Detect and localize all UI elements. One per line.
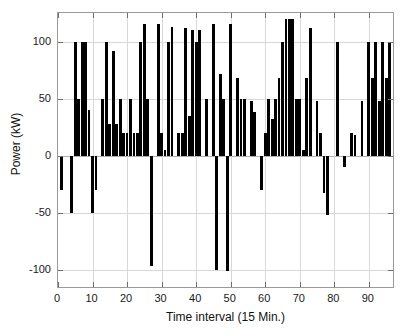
bar <box>281 42 284 156</box>
bar <box>136 133 139 156</box>
bar <box>326 156 329 215</box>
chart-figure: -100-50050100 0102030405060708090 Time i… <box>0 0 417 334</box>
bar <box>122 133 125 156</box>
bar <box>205 99 208 156</box>
bar <box>236 78 239 156</box>
bar <box>288 19 291 156</box>
bar <box>367 42 370 156</box>
bar-series <box>58 13 393 287</box>
tick-x <box>300 282 301 287</box>
y-tick-label: 50 <box>0 92 51 104</box>
tick-x-top <box>93 13 94 18</box>
bar <box>88 110 91 156</box>
tick-x-top <box>300 13 301 18</box>
plot-area <box>57 12 394 288</box>
y-axis-label: Power (kW) <box>9 64 23 224</box>
bar <box>250 101 253 156</box>
x-axis-label: Time interval (15 Min.) <box>57 310 394 324</box>
bar <box>305 78 308 156</box>
tick-x-top <box>334 13 335 18</box>
bar <box>253 112 256 155</box>
bar <box>195 42 198 156</box>
y-tick-label: -50 <box>0 206 51 218</box>
tick-y-right <box>388 99 393 100</box>
bar <box>343 156 346 167</box>
bar <box>285 19 288 156</box>
bar <box>150 156 153 267</box>
bar <box>274 99 277 156</box>
bar <box>81 42 84 156</box>
bar <box>112 51 115 156</box>
bar <box>361 101 364 156</box>
x-tick-label: 90 <box>362 292 374 304</box>
bar <box>354 135 357 156</box>
bar <box>167 42 170 156</box>
bar <box>188 116 191 156</box>
bar <box>212 24 215 155</box>
bar <box>139 42 142 156</box>
x-tick-label: 80 <box>327 292 339 304</box>
bar <box>91 156 94 213</box>
bar <box>177 133 180 156</box>
bar <box>184 28 187 156</box>
bar <box>298 99 301 156</box>
tick-x <box>93 282 94 287</box>
bar <box>385 78 388 156</box>
bar <box>302 150 305 156</box>
bar <box>70 156 73 213</box>
tick-x-top <box>162 13 163 18</box>
bar <box>133 133 136 156</box>
bar <box>316 101 319 156</box>
tick-x-top <box>369 13 370 18</box>
x-tick-label: 60 <box>258 292 270 304</box>
tick-x-top <box>127 13 128 18</box>
bar <box>84 42 87 156</box>
bar <box>198 30 201 156</box>
bar <box>164 150 167 156</box>
tick-x <box>231 282 232 287</box>
bar <box>74 42 77 156</box>
tick-y <box>58 156 63 157</box>
bar <box>115 124 118 156</box>
bar <box>240 99 243 156</box>
x-tick-label: 40 <box>189 292 201 304</box>
tick-x <box>265 282 266 287</box>
bar <box>350 133 353 156</box>
tick-x <box>334 282 335 287</box>
bar <box>229 24 232 155</box>
bar <box>323 156 326 194</box>
bar <box>243 99 246 156</box>
bar <box>95 156 98 190</box>
y-tick-label: -100 <box>0 263 51 275</box>
tick-x <box>369 282 370 287</box>
bar <box>105 42 108 156</box>
tick-x <box>58 282 59 287</box>
x-tick-label: 30 <box>154 292 166 304</box>
x-tick-label: 0 <box>54 292 60 304</box>
tick-y-right <box>388 270 393 271</box>
bar <box>191 30 194 156</box>
bar <box>108 124 111 156</box>
bar <box>295 99 298 156</box>
tick-x-top <box>265 13 266 18</box>
bar <box>171 27 174 156</box>
bar <box>267 99 270 156</box>
bar <box>146 99 149 156</box>
bar <box>260 156 263 190</box>
bar <box>371 78 374 156</box>
bar <box>271 119 274 156</box>
tick-y-right <box>388 156 393 157</box>
bar <box>381 42 384 156</box>
bar <box>264 133 267 156</box>
bar <box>126 133 129 156</box>
y-tick-label: 0 <box>0 149 51 161</box>
tick-y <box>58 99 63 100</box>
bar <box>160 133 163 156</box>
bar <box>101 99 104 156</box>
bar <box>219 74 222 156</box>
tick-x-top <box>58 13 59 18</box>
bar <box>278 78 281 156</box>
bar <box>336 42 339 156</box>
tick-y-right <box>388 42 393 43</box>
tick-y <box>58 42 63 43</box>
